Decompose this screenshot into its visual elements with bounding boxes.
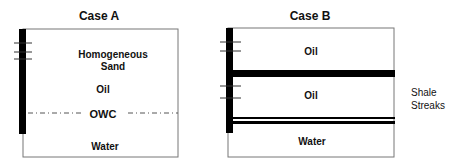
case-b-oil-lower-label: Oil [304,90,318,101]
sand-label-line2: Sand [101,61,125,72]
shale-streaks-label-line2: Streaks [411,100,445,111]
case-a-water-label: Water [91,141,119,152]
case-b: Case B Oil Oil Water Shale Streaks [220,9,445,157]
case-b-oil-upper-label: Oil [304,46,318,57]
case-b-title: Case B [290,9,331,23]
shale-streak-double [233,117,395,124]
owc-label: OWC [90,108,117,120]
shale-streak-thick [233,70,395,77]
case-a-oil-label: Oil [96,84,110,95]
sand-label-line1: Homogeneous [78,49,148,60]
case-b-wellbore [226,28,233,133]
case-a-wellbore [19,29,26,134]
case-a-title: Case A [79,9,120,23]
case-b-water-label: Water [298,136,326,147]
case-a: Case A Homogeneous Sand Oil OWC Water [14,9,178,157]
shale-streaks-label-line1: Shale [411,87,437,98]
reservoir-diagram: Case A Homogeneous Sand Oil OWC Water Ca… [0,0,460,166]
